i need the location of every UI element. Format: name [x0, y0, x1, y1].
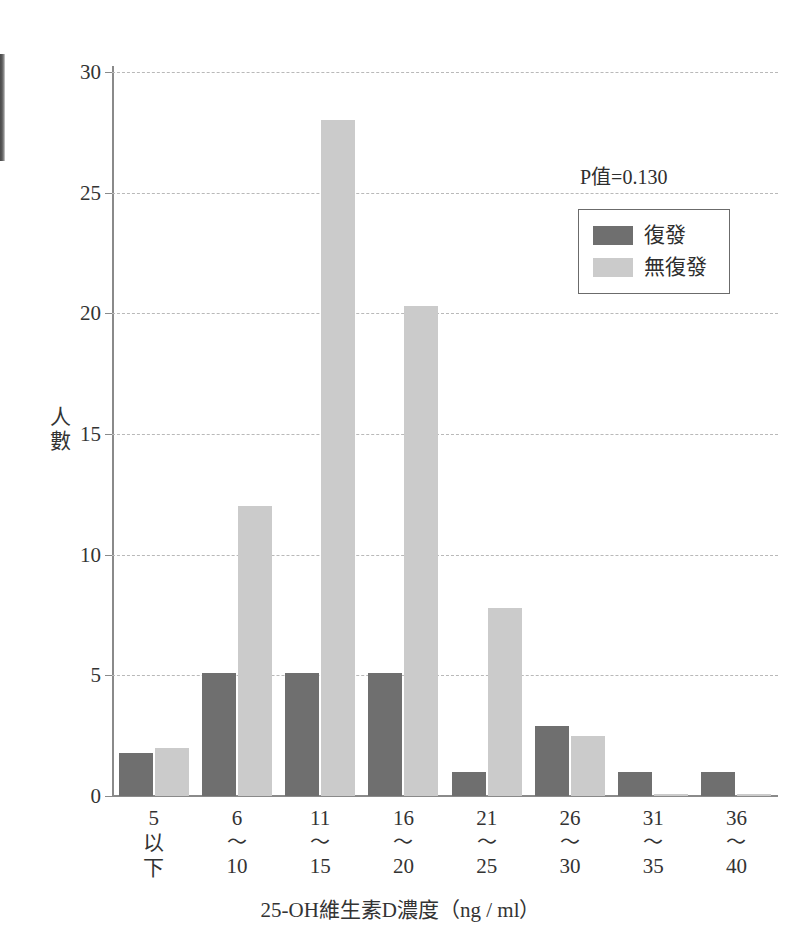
gridline	[112, 555, 778, 556]
x-axis-tick-label-line: 〜	[361, 831, 445, 855]
bar-recurrence	[368, 673, 402, 796]
x-axis-tick-label-line: 〜	[528, 831, 612, 855]
x-axis-tick-label-line: 36	[694, 806, 778, 831]
y-axis-tick	[105, 313, 112, 314]
x-axis-tick-label-line: 31	[611, 806, 695, 831]
p-value-annotation: P值=0.130	[580, 161, 667, 190]
bar-recurrence	[535, 726, 569, 796]
x-axis-tick-label-line: 10	[195, 854, 279, 879]
plot-area: 051015202530	[112, 72, 778, 796]
x-axis-tick-label: 6〜10	[195, 806, 279, 879]
x-axis-tick-label-line: 20	[361, 854, 445, 879]
bar-no-recurrence	[238, 506, 272, 796]
y-axis-tick-label: 0	[91, 786, 102, 807]
x-axis-tick-label: 11〜15	[278, 806, 362, 879]
y-axis-title-char: 人	[47, 405, 73, 429]
y-axis-tick-label: 15	[80, 424, 101, 445]
x-axis-tick-label-line: 15	[278, 854, 362, 879]
legend-label: 無復發	[644, 257, 707, 278]
gridline	[112, 193, 778, 194]
x-axis-tick-label-line: 16	[361, 806, 445, 831]
y-axis-tick-label: 25	[80, 182, 101, 203]
bar-no-recurrence	[404, 306, 438, 796]
x-axis-tick-label-line: 40	[694, 854, 778, 879]
y-axis-tick	[105, 72, 112, 73]
x-axis-tick-label-line: 以	[112, 831, 196, 856]
y-axis-title: 人數	[47, 405, 73, 454]
bar-recurrence	[285, 673, 319, 796]
gridline	[112, 72, 778, 73]
bar-no-recurrence	[488, 608, 522, 796]
bar-recurrence	[202, 673, 236, 796]
legend-item: 復發	[593, 219, 719, 251]
bar-recurrence	[701, 772, 735, 796]
x-axis-tick-label: 5以下	[112, 806, 196, 880]
x-axis-tick-label-line: 21	[445, 806, 529, 831]
y-axis-tick-label: 20	[80, 303, 101, 324]
legend-item: 無復發	[593, 251, 719, 283]
x-axis-tick-label-line: 25	[445, 854, 529, 879]
x-axis-tick-label-line: 下	[112, 856, 196, 881]
gridline	[112, 434, 778, 435]
x-axis-tick-label: 36〜40	[694, 806, 778, 879]
y-axis-tick	[105, 434, 112, 435]
y-axis-tick	[105, 675, 112, 676]
bar-no-recurrence	[737, 794, 771, 796]
legend: 復發無復發	[578, 209, 730, 294]
bar-recurrence	[119, 753, 153, 796]
legend-label: 復發	[644, 225, 686, 246]
x-axis-title: 25-OH維生素D濃度（ng / ml）	[0, 893, 801, 923]
x-axis-tick-label-line: 11	[278, 806, 362, 831]
y-axis-tick-label: 10	[80, 544, 101, 565]
legend-swatch	[593, 226, 633, 245]
x-axis-tick-label-line: 30	[528, 854, 612, 879]
x-axis-tick-label-line: 〜	[278, 831, 362, 855]
x-axis-tick-label-line: 〜	[694, 831, 778, 855]
x-axis-tick-label: 16〜20	[361, 806, 445, 879]
bar-no-recurrence	[155, 748, 189, 796]
x-axis-tick-label-line: 35	[611, 854, 695, 879]
y-axis-tick-label: 30	[80, 62, 101, 83]
legend-swatch	[593, 258, 633, 277]
bar-recurrence	[452, 772, 486, 796]
x-axis-tick-label: 21〜25	[445, 806, 529, 879]
y-axis-tick	[105, 193, 112, 194]
x-axis-tick-label: 31〜35	[611, 806, 695, 879]
y-axis-tick-label: 5	[91, 665, 102, 686]
x-axis-tick-label-line: 26	[528, 806, 612, 831]
y-axis-tick	[105, 555, 112, 556]
x-axis-tick-label-line: 〜	[611, 831, 695, 855]
bar-no-recurrence	[654, 794, 688, 796]
y-axis-title-char: 數	[47, 429, 73, 453]
x-axis-tick-label-line: 6	[195, 806, 279, 831]
x-axis-tick-label: 26〜30	[528, 806, 612, 879]
bar-chart: 051015202530 5以下6〜1011〜1516〜2021〜2526〜30…	[0, 0, 801, 952]
bar-recurrence	[618, 772, 652, 796]
bar-no-recurrence	[571, 736, 605, 796]
bar-no-recurrence	[321, 120, 355, 796]
x-axis-tick-label-line: 5	[112, 806, 196, 831]
x-axis-tick-label-line: 〜	[445, 831, 529, 855]
x-axis-tick-label-line: 〜	[195, 831, 279, 855]
y-axis-tick	[105, 796, 112, 797]
gridline	[112, 313, 778, 314]
